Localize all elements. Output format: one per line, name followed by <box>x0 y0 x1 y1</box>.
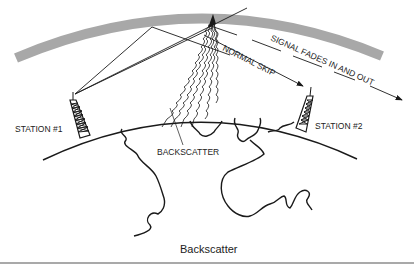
station-2-label: STATION #2 <box>315 121 363 131</box>
station-1-label: STATION #1 <box>15 124 63 134</box>
station-2-tower-icon <box>296 87 313 132</box>
station-1-tower-icon <box>70 92 90 138</box>
normal-skip-label: NORMAL SKIP <box>221 43 277 78</box>
backscatter-diagram: STATION #1 STATION #2 BACKSCATTER NORMAL… <box>0 0 414 269</box>
signal-fades-arrow <box>208 25 402 100</box>
backscatter-label: BACKSCATTER <box>157 147 219 157</box>
continent-outlines <box>121 118 312 236</box>
signal-fades-label: SIGNAL FADES IN AND OUT <box>269 33 375 88</box>
ionosphere-layer <box>16 18 382 58</box>
figure-caption: Backscatter <box>180 243 238 255</box>
